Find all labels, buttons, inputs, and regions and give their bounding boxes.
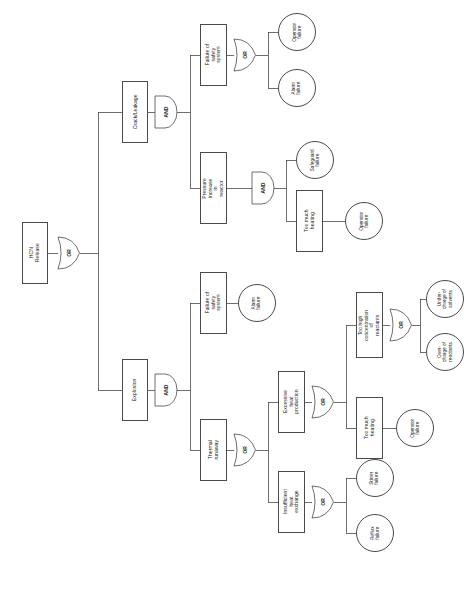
node-label: Safeguard failure [310, 149, 321, 171]
or-gate-root[interactable]: OR [58, 236, 80, 270]
node-label: Failure of safety system [205, 42, 222, 67]
basic-event-over-charge-of-reactants[interactable]: Over- charge of reactants [426, 333, 464, 371]
node-label: Alarm failure [252, 296, 263, 309]
node-label: Alarm failure [292, 81, 303, 94]
node-label: Operator failure [292, 23, 303, 42]
basic-event-operator-failure-1[interactable]: Operator failure [278, 13, 316, 51]
node-label: Thermal runaway [208, 438, 219, 463]
basic-event-stirrer-failure[interactable]: Stirrer failure [356, 459, 394, 497]
node-label: Pressure increase in reactor [202, 176, 225, 201]
node-label: Reflux failure [370, 526, 381, 540]
node-label: Operator failure [410, 419, 421, 438]
node-label: Too much heating [304, 209, 315, 234]
basic-event-alarm-failure-2[interactable]: Alarm failure [238, 284, 276, 322]
node-label: Crack/Leakage [132, 95, 138, 130]
node-label: Failure of safety system [205, 290, 222, 315]
node-label: Insufficient heat exchange [283, 489, 300, 514]
node-label: Too high concentration of reactants [358, 309, 381, 340]
or-gate-insufficient-heat-exchange[interactable]: OR [312, 485, 334, 519]
node-label: Too much heating [364, 416, 375, 441]
event-too-high-concentration-of-reactants[interactable]: Too high concentration of reactants [356, 292, 383, 358]
event-failure-of-safety-system-top[interactable]: Failure of safety system [200, 24, 227, 86]
event-excessive-heat-production[interactable]: Excessive heat production [278, 371, 305, 433]
node-label: Excessive heat production [283, 389, 300, 414]
basic-event-alarm-failure-1[interactable]: Alarm failure [278, 69, 316, 107]
node-label: Operator failure [359, 212, 370, 231]
or-gate-excessive-heat[interactable]: OR [312, 385, 334, 419]
and-gate-crack-leakage[interactable]: AND [155, 95, 177, 129]
event-too-much-heating-2[interactable]: Too much heating [356, 397, 383, 459]
basic-event-operator-failure-3[interactable]: Operator failure [396, 409, 434, 447]
event-pressure-increase-in-reactor[interactable]: Pressure increase in reactor [200, 152, 227, 224]
event-failure-of-safety-system-low[interactable]: Failure of safety system [200, 272, 227, 334]
basic-event-under-charge-of-solvents[interactable]: Under- charge of solvents [426, 280, 464, 318]
basic-event-safeguard-failure[interactable]: Safeguard failure [296, 141, 334, 179]
or-gate-failure-safety-top[interactable]: OR [234, 38, 256, 72]
and-gate-pressure-increase[interactable]: AND [252, 171, 274, 205]
or-gate-thermal-runaway[interactable]: OR [234, 433, 256, 467]
node-label: Over- charge of reactants [437, 342, 453, 362]
node-label: HCN Release [29, 241, 40, 265]
and-gate-explosion[interactable]: AND [155, 373, 177, 407]
event-too-much-heating-1[interactable]: Too much heating [296, 190, 323, 252]
node-label: Explosion [132, 379, 138, 402]
node-label: Under- charge of solvents [437, 289, 453, 309]
basic-event-operator-failure-2[interactable]: Operator failure [345, 202, 383, 240]
node-label: Stirrer failure [370, 471, 381, 484]
event-crack-leakage[interactable]: Crack/Leakage [122, 81, 148, 143]
event-thermal-runaway[interactable]: Thermal runaway [200, 419, 227, 481]
basic-event-reflux-failure[interactable]: Reflux failure [356, 514, 394, 552]
event-insufficient-heat-exchange[interactable]: Insufficient heat exchange [278, 471, 305, 533]
event-explosion[interactable]: Explosion [122, 359, 148, 421]
or-gate-too-high-concentration[interactable]: OR [390, 308, 412, 342]
top-event-hcn-release[interactable]: HCN Release [22, 222, 48, 284]
